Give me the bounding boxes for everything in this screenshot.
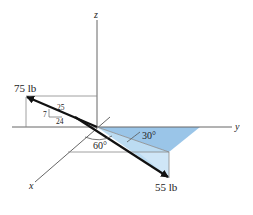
force-label-55: 55 lb [155,181,178,193]
angle-label-30: 30° [142,130,156,141]
force-label-75: 75 lb [14,82,37,94]
angle-label-60: 60° [93,140,107,151]
x-axis-label: x [28,180,34,191]
slope-run-label: 24 [56,117,64,126]
z-axis-label: z [93,9,98,20]
slope-rise-label: 7 [43,110,47,119]
y-axis-label: y [234,121,240,132]
slope-hyp-label: 25 [57,103,65,112]
force-diagram: z y x 75 lb 25 7 24 55 lb 60° 30° [0,0,253,215]
